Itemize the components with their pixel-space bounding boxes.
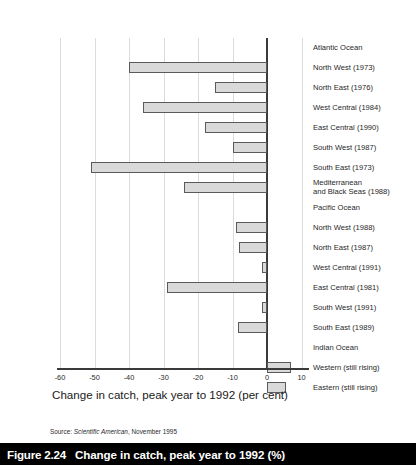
gridline	[198, 38, 199, 368]
gridline	[95, 38, 96, 368]
category-label: East Central (1981)	[313, 283, 379, 292]
category-label: Indian Ocean	[313, 343, 358, 352]
category-label: West Central (1991)	[313, 263, 381, 272]
bar	[143, 102, 267, 113]
category-label: North West (1973)	[313, 63, 375, 72]
category-label-line: West Central (1984)	[313, 103, 381, 112]
source-suffix: , November 1995	[128, 428, 177, 435]
category-label-line: North East (1976)	[313, 83, 373, 92]
bar	[205, 122, 267, 133]
x-axis-baseline	[57, 368, 309, 370]
category-label: South East (1989)	[313, 323, 374, 332]
x-tick-label: -60	[47, 373, 73, 382]
figure-caption-text: Change in catch, peak year to 1992 (%)	[75, 448, 285, 461]
category-label: West Central (1984)	[313, 103, 381, 112]
source-note: Source: Scientific American, November 19…	[50, 428, 177, 435]
x-axis-title: Change in catch, peak year to 1992 (per …	[0, 388, 340, 401]
gridline	[164, 38, 165, 368]
plot-area	[57, 38, 309, 368]
category-label: South West (1991)	[313, 303, 376, 312]
category-label-line: North West (1973)	[313, 63, 375, 72]
category-label-line: South West (1991)	[313, 303, 376, 312]
x-tick-label: -40	[116, 373, 142, 382]
x-tick-label: -30	[151, 373, 177, 382]
bar	[215, 82, 267, 93]
bar	[184, 182, 267, 193]
category-label-line: Western (still rising)	[313, 363, 380, 372]
source-publication: Scientific American	[74, 428, 128, 435]
x-tick-label: -10	[220, 373, 246, 382]
bar	[91, 162, 267, 173]
x-tick-label: 10	[289, 373, 315, 382]
category-label-line: South East (1989)	[313, 323, 374, 332]
category-label: North East (1987)	[313, 243, 373, 252]
x-tick-label: -20	[185, 373, 211, 382]
figure-caption-bar: Figure 2.24 Change in catch, peak year t…	[0, 443, 416, 465]
x-tick-label: 0	[254, 373, 280, 382]
bar	[233, 142, 268, 153]
bar	[236, 222, 267, 233]
figure-number: Figure 2.24	[7, 448, 66, 461]
category-label-line: North East (1987)	[313, 243, 373, 252]
gridline	[60, 38, 61, 368]
category-label: East Central (1990)	[313, 123, 379, 132]
category-label: Pacific Ocean	[313, 203, 360, 212]
category-label: Atlantic Ocean	[313, 43, 362, 52]
bar	[262, 262, 267, 273]
category-label-line: East Central (1981)	[313, 283, 379, 292]
category-label: Mediterraneanand Black Seas (1988)	[313, 178, 413, 197]
figure-container: -60-50-40-30-20-10010 Change in catch, p…	[0, 0, 416, 475]
category-label-line: and Black Seas (1988)	[313, 187, 413, 196]
category-label-line: South East (1973)	[313, 163, 374, 172]
bar	[239, 242, 267, 253]
bar	[167, 282, 267, 293]
bar	[129, 62, 267, 73]
gridline	[302, 38, 303, 368]
category-label-line: Indian Ocean	[313, 343, 358, 352]
category-label-line: East Central (1990)	[313, 123, 379, 132]
gridline	[129, 38, 130, 368]
category-label-line: Mediterranean	[313, 178, 413, 187]
category-label: South West (1987)	[313, 143, 376, 152]
bar	[238, 322, 267, 333]
category-label-line: South West (1987)	[313, 143, 376, 152]
category-label: South East (1973)	[313, 163, 374, 172]
category-label: Eastern (still rising)	[313, 383, 378, 392]
x-tick-label: -50	[82, 373, 108, 382]
category-label-line: Pacific Ocean	[313, 203, 360, 212]
category-label-line: North West (1988)	[313, 223, 375, 232]
source-prefix: Source:	[50, 428, 74, 435]
category-label: North East (1976)	[313, 83, 373, 92]
bar	[262, 302, 267, 313]
category-label-line: West Central (1991)	[313, 263, 381, 272]
category-label-line: Eastern (still rising)	[313, 383, 378, 392]
category-label: Western (still rising)	[313, 363, 380, 372]
category-label-line: Atlantic Ocean	[313, 43, 362, 52]
category-label: North West (1988)	[313, 223, 375, 232]
